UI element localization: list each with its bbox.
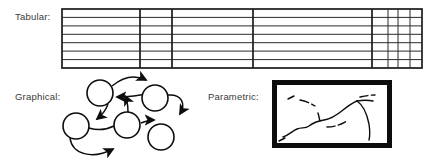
figure-canvas: Tabular: Graphical: [0, 0, 433, 166]
parametric-curve-branch [357, 100, 373, 101]
parametric-frame [275, 83, 390, 146]
parametric-map-illustration [0, 0, 433, 166]
